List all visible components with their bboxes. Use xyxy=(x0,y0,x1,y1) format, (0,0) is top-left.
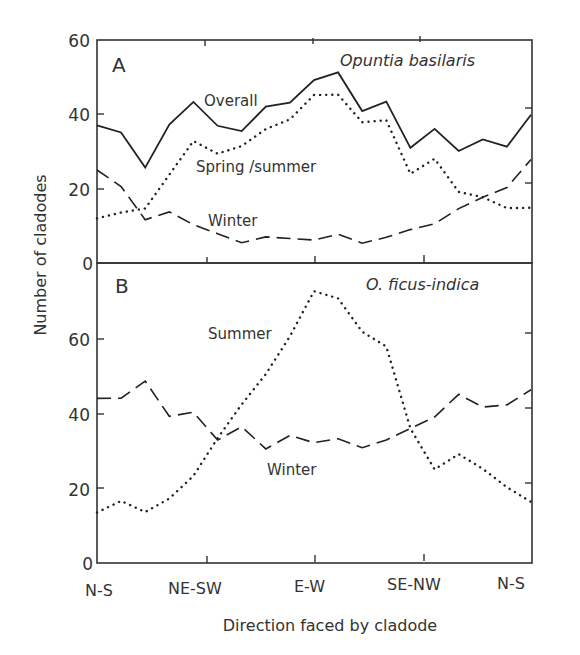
panel-a-species: Opuntia basilaris xyxy=(340,51,475,70)
panel-b-winter-label: Winter xyxy=(267,461,317,479)
panel-b-summer-line xyxy=(97,291,531,512)
xtick-label-e-w: E-W xyxy=(294,577,325,596)
panel-a-ytick-label-20: 20 xyxy=(68,180,90,200)
panel-b-ytick-label-20: 20 xyxy=(68,480,90,500)
panel-a-ytick-label-60: 60 xyxy=(68,31,90,51)
panel-b-letter: B xyxy=(115,274,129,298)
xtick-label-se-nw: SE-NW xyxy=(387,575,441,594)
panel-a-letter: A xyxy=(112,53,126,77)
panel-b-summer-label: Summer xyxy=(208,325,272,343)
panel-b-ytick-label-60: 60 xyxy=(68,330,90,350)
cladode-orientation-chart: 60 40 20 0 A Opuntia basilaris Overall S… xyxy=(0,0,580,655)
panel-b-ytick-label-40: 40 xyxy=(68,405,90,425)
panel-a: 60 40 20 0 A Opuntia basilaris Overall S… xyxy=(68,31,532,274)
panel-a-ytick-label-0: 0 xyxy=(82,254,93,274)
y-axis-title: Number of cladodes xyxy=(31,174,50,335)
panel-a-overall-line xyxy=(97,72,531,167)
panel-b: 60 40 20 0 B O. ficus-indica Summer Wint… xyxy=(68,263,532,574)
xtick-label-n-s-right: N-S xyxy=(497,574,525,593)
panel-a-ytick-label-40: 40 xyxy=(68,105,90,125)
panel-b-ytick-label-0: 0 xyxy=(82,554,93,574)
x-axis-title: Direction faced by cladode xyxy=(223,616,437,635)
panel-a-frame xyxy=(97,40,532,263)
panel-a-winter-label: Winter xyxy=(208,212,258,230)
xtick-label-n-s-left: N-S xyxy=(85,581,113,600)
panel-b-species: O. ficus-indica xyxy=(366,275,479,294)
panel-a-overall-label: Overall xyxy=(204,92,258,110)
panel-b-frame xyxy=(97,263,532,563)
panel-b-winter-line xyxy=(97,381,531,449)
panel-a-spring-summer-label: Spring /summer xyxy=(196,158,317,176)
panel-a-spring-summer-line xyxy=(97,95,531,219)
xtick-label-ne-sw: NE-SW xyxy=(168,579,222,598)
